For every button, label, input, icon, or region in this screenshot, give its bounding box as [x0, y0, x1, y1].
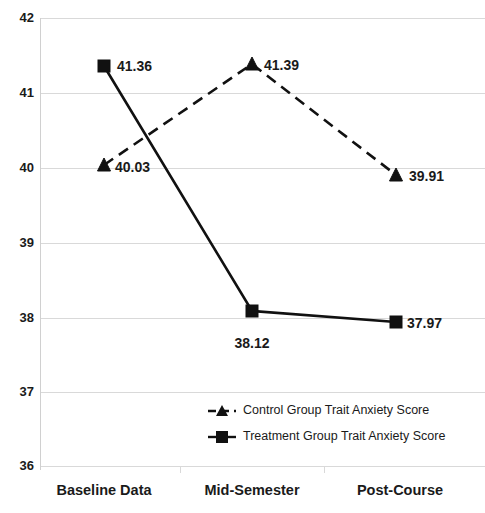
label-control-mid: 41.39 — [264, 57, 299, 73]
chart-container: 42 41 40 39 38 37 36 41.36 40.03 41.39 — [0, 0, 485, 513]
label-control-post: 39.91 — [409, 168, 444, 184]
legend-item-treatment[interactable]: Treatment Group Trait Anxiety Score — [208, 429, 445, 443]
line-chart: 42 41 40 39 38 37 36 41.36 40.03 41.39 — [0, 0, 485, 513]
y-tick-40: 40 — [20, 160, 34, 175]
legend-label-treatment: Treatment Group Trait Anxiety Score — [243, 429, 445, 443]
x-tick-baseline-data: Baseline Data — [56, 482, 152, 498]
plot-area — [40, 18, 485, 466]
y-tick-38: 38 — [20, 310, 34, 325]
y-axis-tick-labels: 42 41 40 39 38 37 36 — [20, 10, 34, 473]
y-tick-37: 37 — [20, 384, 34, 399]
category-dividers — [181, 466, 325, 473]
legend-label-control: Control Group Trait Anxiety Score — [243, 403, 429, 417]
x-tick-mid-semester: Mid-Semester — [204, 482, 299, 498]
y-tick-42: 42 — [20, 10, 34, 25]
label-treatment-baseline: 41.36 — [117, 58, 152, 74]
label-treatment-post: 37.97 — [407, 315, 442, 331]
marker-treatment-post — [390, 316, 402, 328]
y-tick-41: 41 — [20, 85, 34, 100]
x-tick-post-course: Post-Course — [357, 482, 443, 498]
marker-treatment-mid — [246, 305, 258, 317]
y-tick-39: 39 — [20, 235, 34, 250]
label-treatment-mid: 38.12 — [234, 335, 269, 351]
marker-treatment-baseline — [98, 60, 110, 72]
x-axis-tick-labels: Baseline Data Mid-Semester Post-Course — [56, 482, 443, 498]
legend-marker-square-icon — [216, 431, 228, 443]
label-control-baseline: 40.03 — [115, 159, 150, 175]
y-tick-36: 36 — [20, 458, 34, 473]
